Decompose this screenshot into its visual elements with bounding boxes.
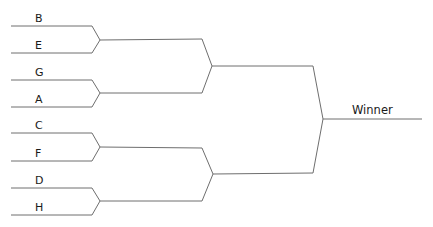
entry-g-label: G xyxy=(35,66,44,79)
match-1-connector xyxy=(11,26,100,53)
winner-label: Winner xyxy=(352,103,393,117)
semifinal-2-connector xyxy=(100,147,213,201)
match-4-connector xyxy=(11,188,100,215)
round1-match-2: G A xyxy=(11,66,100,107)
semifinal-1-connector xyxy=(100,39,212,93)
entry-e-label: E xyxy=(35,39,42,52)
entry-a-label: A xyxy=(35,93,43,106)
round1-match-1: B E xyxy=(11,12,100,53)
entry-f-label: F xyxy=(35,147,41,160)
final-connector xyxy=(212,66,323,174)
entry-b-label: B xyxy=(35,12,43,25)
match-2-connector xyxy=(11,80,100,107)
tournament-bracket: B E G A C F D H Winner xyxy=(0,0,433,227)
match-3-connector xyxy=(11,133,100,161)
round1-match-3: C F xyxy=(11,119,100,161)
entry-h-label: H xyxy=(35,201,43,214)
entry-d-label: D xyxy=(35,174,43,187)
entry-c-label: C xyxy=(35,119,43,132)
round1-match-4: D H xyxy=(11,174,100,215)
